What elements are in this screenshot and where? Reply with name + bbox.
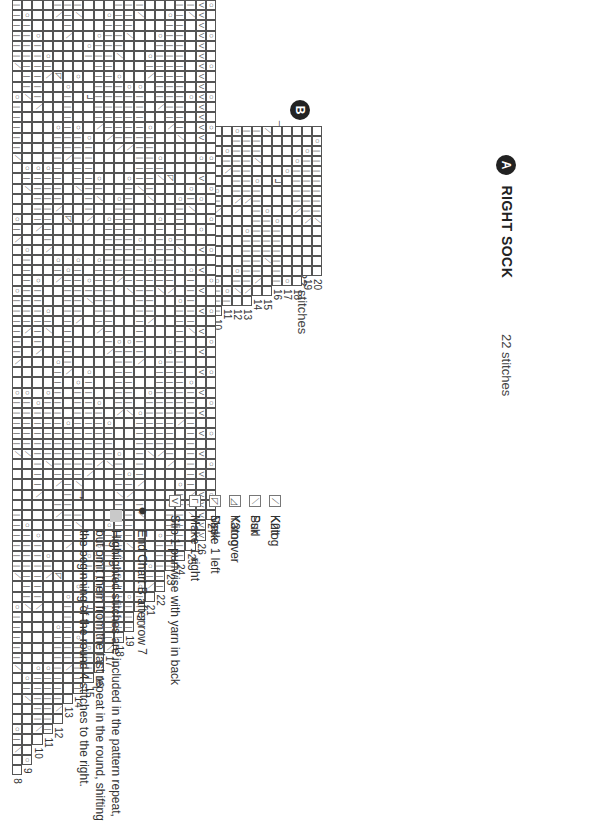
stitch-knit (282, 206, 292, 216)
stitch-purl: | (145, 143, 155, 153)
stitch-knit (43, 541, 53, 551)
stitch-purl: | (94, 439, 104, 449)
stitch-knit (83, 71, 93, 81)
stitch-knit (43, 82, 53, 92)
stitch-slip: V (196, 41, 206, 51)
stitch-purl: | (124, 520, 134, 530)
stitch-purl: | (242, 156, 252, 166)
stitch-purl: | (124, 224, 134, 234)
stitch-knit (124, 551, 134, 561)
stitch-purl: | (63, 530, 73, 540)
stitch-purl: | (22, 561, 32, 571)
stitch-yarnover: ○ (53, 357, 63, 367)
stitch-yarnover: ○ (114, 449, 124, 459)
stitch-purl: | (242, 146, 252, 156)
stitch-purl: | (32, 286, 42, 296)
stitch-purl: | (83, 439, 93, 449)
stitch-knit (165, 194, 175, 204)
stitch-knit (53, 61, 63, 71)
stitch-purl: | (63, 296, 73, 306)
stitch-yarnover: ○ (302, 146, 312, 156)
stitch-purl: | (114, 459, 124, 469)
stitch-knit (43, 275, 53, 285)
stitch-yarnover: ○ (32, 275, 42, 285)
stitch-yarnover: ○ (134, 82, 144, 92)
stitch-purl: | (22, 173, 32, 183)
stitch-purl: | (12, 418, 22, 428)
stitch-knit (155, 510, 165, 520)
stitch-knit (63, 408, 73, 418)
stitch-purl: | (12, 408, 22, 418)
stitch-purl: | (232, 156, 242, 166)
stitch-knit (155, 337, 165, 347)
stitch-slip: V (196, 92, 206, 102)
stitch-purl: | (43, 704, 53, 714)
stitch-purl: | (94, 41, 104, 51)
stitch-yarnover: ○ (272, 216, 282, 226)
stitch-knit (282, 196, 292, 206)
stitch-knit (185, 122, 195, 132)
stitch-ssk: ⟍ (53, 204, 63, 214)
stitch-knit (43, 500, 53, 510)
stitch-purl: | (145, 275, 155, 285)
stitch-purl: | (165, 245, 175, 255)
stitch-yarnover: ○ (32, 530, 42, 540)
stitch-knit (145, 469, 155, 479)
stitch-knit (185, 245, 195, 255)
stitch-purl: | (145, 439, 155, 449)
stitch-purl: | (32, 551, 42, 561)
stitch-knit (165, 184, 175, 194)
stitch-knit (124, 561, 134, 571)
stitch-purl: | (145, 398, 155, 408)
stitch-k2tog: ⟋ (262, 256, 272, 266)
stitch-knit (104, 500, 114, 510)
stitch-knit (83, 347, 93, 357)
stitch-sssk: ◸ (165, 173, 175, 183)
stitch-purl: | (43, 184, 53, 194)
stitch-yarnover: ○ (22, 163, 32, 173)
stitch-knit (94, 163, 104, 173)
stitch-purl: | (124, 194, 134, 204)
stitch-knit (83, 510, 93, 520)
stitch-purl: | (175, 122, 185, 132)
stitch-knit (175, 173, 185, 183)
stitch-purl: | (252, 126, 262, 136)
stitch-knit (242, 206, 252, 216)
stitch-knit (43, 31, 53, 41)
stitch-knit (53, 347, 63, 357)
stitch-purl: | (43, 214, 53, 224)
stitch-knit (206, 133, 216, 143)
stitch-purl: | (94, 82, 104, 92)
stitch-knit (43, 632, 53, 642)
stitch-yarnover: ○ (145, 388, 155, 398)
stitch-ssk: ⟍ (43, 71, 53, 81)
stitch-purl: | (155, 561, 165, 571)
stitch-purl: | (63, 632, 73, 642)
stitch-purl: | (104, 122, 114, 132)
stitch-purl: | (145, 133, 155, 143)
stitch-knit (114, 173, 124, 183)
stitch-knit (272, 136, 282, 146)
stitch-knit (134, 224, 144, 234)
stitch-purl: | (104, 20, 114, 30)
stitch-purl: | (32, 592, 42, 602)
stitch-knit (185, 20, 195, 30)
stitch-knit (206, 194, 216, 204)
stitch-purl: | (124, 92, 134, 102)
stitch-purl: | (94, 61, 104, 71)
stitch-knit (43, 122, 53, 132)
stitch-ssk: ⟍ (94, 459, 104, 469)
stitch-purl: | (22, 581, 32, 591)
stitch-ssk: ⟍ (83, 214, 93, 224)
stitch-knit (53, 592, 63, 602)
legend-label: Make 1 right (188, 515, 202, 581)
stitch-knit (22, 224, 32, 234)
stitch-k2tog: ⟋ (124, 286, 134, 296)
stitch-purl: | (155, 41, 165, 51)
stitch-purl: | (32, 469, 42, 479)
stitch-purl: | (302, 166, 312, 176)
stitch-purl: | (73, 418, 83, 428)
stitch-purl: | (175, 224, 185, 234)
stitch-purl: | (104, 265, 114, 275)
stitch-knit (292, 226, 302, 236)
